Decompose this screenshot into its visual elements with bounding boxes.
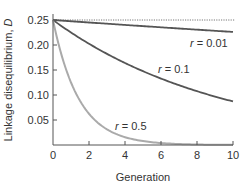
curve-label: r = 0.5 [115, 120, 147, 132]
curve-r-0-1 [53, 20, 233, 101]
y-tick-label: 0.05 [28, 114, 49, 126]
x-tick-label: 8 [194, 149, 200, 161]
x-tick-label: 2 [86, 149, 92, 161]
y-tick-label: 0.20 [28, 39, 49, 51]
x-tick-label: 4 [122, 149, 128, 161]
x-tick-label: 0 [50, 149, 56, 161]
y-tick-label: 0.10 [28, 89, 49, 101]
y-axis-title: Linkage disequilibrium, D [2, 19, 14, 142]
y-tick-label: 0.15 [28, 64, 49, 76]
x-tick-label: 10 [227, 149, 239, 161]
curve-r-0-01 [53, 20, 233, 32]
curve-label: r = 0.1 [158, 63, 190, 75]
curve-labels: r = 0.01r = 0.1r = 0.5 [115, 37, 228, 132]
y-tick-label: 0.25 [28, 14, 49, 26]
x-tick-label: 6 [158, 149, 164, 161]
x-axis-title: Generation [116, 171, 170, 183]
curve-label: r = 0.01 [190, 37, 228, 49]
chart-canvas: 02468100.050.100.150.200.25 r = 0.01r = … [0, 0, 248, 185]
linkage-disequilibrium-chart: 02468100.050.100.150.200.25 r = 0.01r = … [0, 0, 248, 185]
